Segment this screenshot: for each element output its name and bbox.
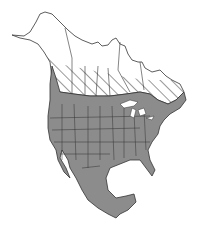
range-map: [0, 0, 197, 228]
